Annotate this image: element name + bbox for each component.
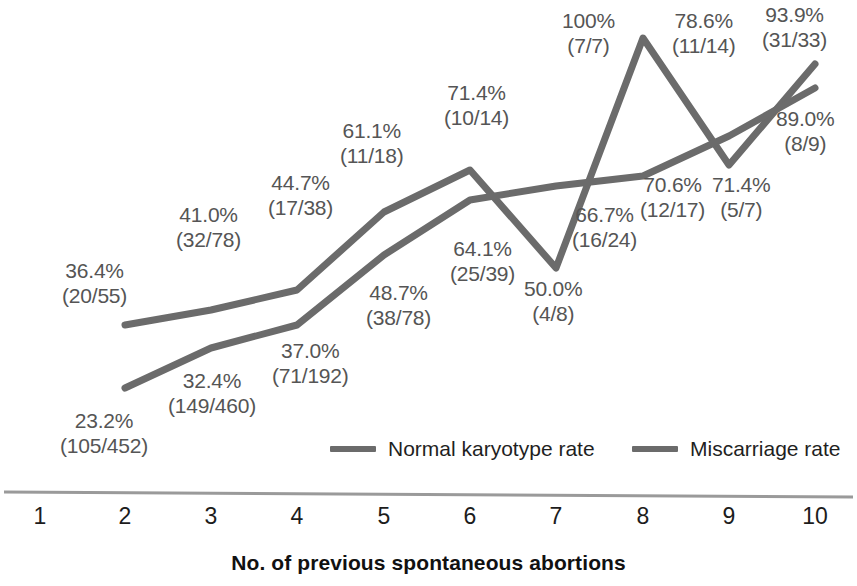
data-label-percent: 78.6% xyxy=(672,8,736,33)
data-label: 44.7% (17/38) xyxy=(268,170,333,220)
data-label-fraction: (32/78) xyxy=(176,227,241,252)
data-label-percent: 32.4% xyxy=(168,368,256,393)
legend-label: Normal karyotype rate xyxy=(388,437,595,461)
data-label: 32.4% (149/460) xyxy=(168,368,256,418)
data-label: 61.1% (11/18) xyxy=(340,118,404,168)
x-axis-line xyxy=(4,492,853,497)
x-tick-label: 6 xyxy=(440,503,500,530)
x-tick-label: 3 xyxy=(181,503,241,530)
data-label: 66.7% (16/24) xyxy=(572,202,637,252)
data-label: 64.1% (25/39) xyxy=(450,236,515,286)
data-label-percent: 93.9% xyxy=(762,2,827,27)
data-label-percent: 23.2% xyxy=(60,408,148,433)
data-label-fraction: (5/7) xyxy=(712,197,771,222)
data-label-percent: 41.0% xyxy=(176,202,241,227)
x-tick-label: 1 xyxy=(10,503,70,530)
data-label-fraction: (16/24) xyxy=(572,227,637,252)
data-label: 89.0% (8/9) xyxy=(776,106,835,156)
data-label-fraction: (31/33) xyxy=(762,27,827,52)
x-tick-label: 2 xyxy=(95,503,155,530)
data-label-percent: 71.4% xyxy=(444,80,509,105)
x-tick-label: 10 xyxy=(785,503,845,530)
legend-item-miscarriage-rate[interactable]: Miscarriage rate xyxy=(632,437,841,461)
data-label-percent: 71.4% xyxy=(712,172,771,197)
data-label-fraction: (20/55) xyxy=(62,283,127,308)
x-tick-label: 5 xyxy=(354,503,414,530)
x-tick-label: 7 xyxy=(526,503,586,530)
data-label-percent: 44.7% xyxy=(268,170,333,195)
x-tick-label: 4 xyxy=(267,503,327,530)
data-label: 78.6% (11/14) xyxy=(672,8,736,58)
data-label-percent: 50.0% xyxy=(524,276,583,301)
data-label-percent: 66.7% xyxy=(572,202,637,227)
data-label-percent: 100% xyxy=(562,8,615,33)
x-tick-label: 9 xyxy=(699,503,759,530)
chart-container: 36.4% (20/55) 23.2% (105/452) 41.0% (32/… xyxy=(0,0,857,586)
data-label: 100% (7/7) xyxy=(562,8,615,58)
data-label-fraction: (149/460) xyxy=(168,393,256,418)
data-label-fraction: (105/452) xyxy=(60,433,148,458)
data-label-percent: 89.0% xyxy=(776,106,835,131)
data-label-percent: 70.6% xyxy=(640,172,705,197)
legend-swatch-icon xyxy=(632,446,678,452)
data-label-fraction: (11/18) xyxy=(340,143,404,168)
data-label-percent: 37.0% xyxy=(272,338,349,363)
data-label-percent: 36.4% xyxy=(62,258,127,283)
data-label: 36.4% (20/55) xyxy=(62,258,127,308)
legend-item-normal-karyotype-rate[interactable]: Normal karyotype rate xyxy=(330,437,595,461)
x-axis-title: No. of previous spontaneous abortions xyxy=(0,551,857,575)
data-label: 71.4% (10/14) xyxy=(444,80,509,130)
data-label-fraction: (12/17) xyxy=(640,197,705,222)
x-tick-label: 8 xyxy=(613,503,673,530)
data-label: 23.2% (105/452) xyxy=(60,408,148,458)
data-label-fraction: (8/9) xyxy=(776,131,835,156)
data-label-fraction: (7/7) xyxy=(562,33,615,58)
data-label: 70.6% (12/17) xyxy=(640,172,705,222)
data-label-percent: 48.7% xyxy=(366,280,431,305)
data-label-fraction: (4/8) xyxy=(524,301,583,326)
data-label-fraction: (11/14) xyxy=(672,33,736,58)
data-label-percent: 64.1% xyxy=(450,236,515,261)
data-label: 93.9% (31/33) xyxy=(762,2,827,52)
data-label: 41.0% (32/78) xyxy=(176,202,241,252)
data-label: 37.0% (71/192) xyxy=(272,338,349,388)
data-label-fraction: (25/39) xyxy=(450,261,515,286)
data-label-percent: 61.1% xyxy=(340,118,404,143)
data-label: 48.7% (38/78) xyxy=(366,280,431,330)
data-label: 50.0% (4/8) xyxy=(524,276,583,326)
data-label-fraction: (71/192) xyxy=(272,363,349,388)
data-label: 71.4% (5/7) xyxy=(712,172,771,222)
legend-label: Miscarriage rate xyxy=(690,437,841,461)
data-label-fraction: (38/78) xyxy=(366,305,431,330)
legend-swatch-icon xyxy=(330,446,376,452)
data-label-fraction: (17/38) xyxy=(268,195,333,220)
data-label-fraction: (10/14) xyxy=(444,105,509,130)
